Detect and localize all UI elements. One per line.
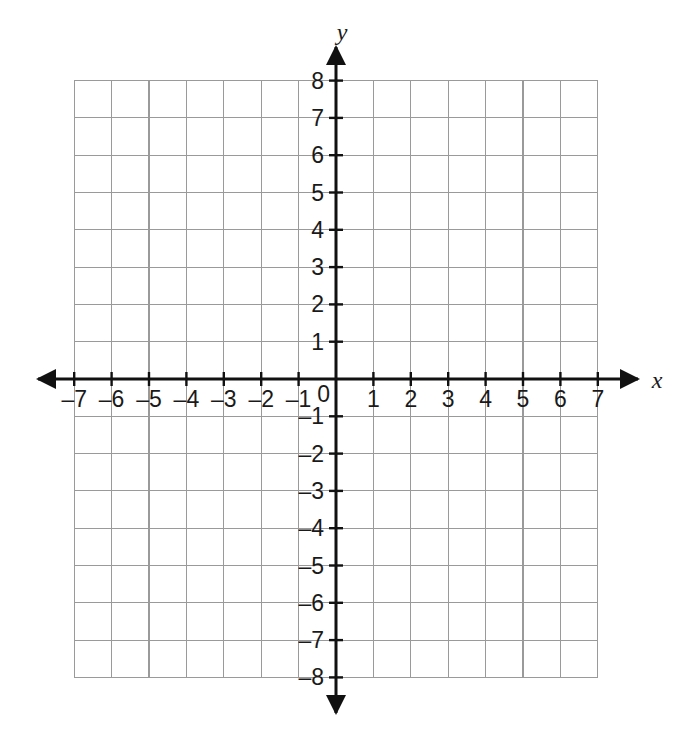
y-tick-label: 6	[311, 142, 324, 168]
x-tick-label: 3	[442, 386, 455, 412]
y-tick-label: –6	[298, 590, 324, 616]
x-tick-label: –6	[99, 386, 125, 412]
x-tick-label: –4	[174, 386, 200, 412]
origin-label: 0	[317, 381, 330, 407]
y-tick-label: –4	[298, 515, 324, 541]
y-tick-label: –8	[298, 664, 324, 690]
x-tick-label: –2	[248, 386, 274, 412]
x-tick-label: –5	[136, 386, 162, 412]
x-tick-label: 2	[404, 386, 417, 412]
x-axis-label: x	[651, 367, 663, 393]
x-axis-right-arrow-icon	[620, 369, 640, 389]
y-tick-label: 4	[311, 217, 324, 243]
coordinate-grid-svg: –7–6–5–4–3–2–11234567 87654321–1–2–3–4–5…	[0, 0, 677, 734]
y-tick-label: 8	[311, 68, 324, 94]
y-axis-down-arrow-icon	[326, 695, 346, 715]
y-tick-label: 7	[311, 105, 324, 131]
x-tick-label: 6	[554, 386, 567, 412]
x-tick-label: 4	[479, 386, 492, 412]
x-tick-label: 1	[367, 386, 380, 412]
x-axis-left-arrow-icon	[36, 369, 56, 389]
y-tick-label: 1	[311, 329, 324, 355]
x-tick-label: 7	[591, 386, 604, 412]
y-tick-label: 3	[311, 254, 324, 280]
x-tick-label: –7	[61, 386, 87, 412]
y-axis-up-arrow-icon	[326, 45, 346, 65]
x-axis-tick-labels: –7–6–5–4–3–2–11234567	[61, 386, 604, 412]
y-tick-label: –3	[298, 478, 324, 504]
y-tick-label: –7	[298, 627, 324, 653]
y-tick-label: 2	[311, 291, 324, 317]
y-tick-label: –2	[298, 441, 324, 467]
y-tick-label: –1	[298, 403, 324, 429]
x-tick-label: 5	[517, 386, 530, 412]
x-tick-label: –3	[211, 386, 237, 412]
coordinate-plane: –7–6–5–4–3–2–11234567 87654321–1–2–3–4–5…	[0, 0, 677, 734]
y-tick-label: –5	[298, 553, 324, 579]
y-tick-label: 5	[311, 180, 324, 206]
y-axis-label: y	[335, 19, 348, 45]
